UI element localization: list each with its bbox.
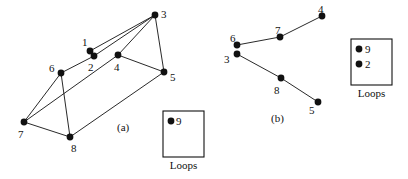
- figure-root: 12345678(a)9Loops345678(b)92Loops: [0, 0, 408, 179]
- graph-node-label-2: 2: [88, 62, 94, 73]
- loops-box-panel-a: [163, 111, 204, 157]
- graph-node-label-6: 6: [230, 33, 236, 44]
- graph-node-label-7: 7: [275, 25, 281, 36]
- loop-node-label-9: 9: [176, 116, 182, 127]
- graph-edge-2-3: [94, 15, 155, 56]
- graph-edge-3-8: [237, 54, 281, 78]
- graph-edge-6-7: [24, 73, 61, 122]
- graph-node-6[interactable]: [58, 70, 65, 77]
- panel-caption-panel-a: (a): [117, 122, 129, 133]
- graph-node-8[interactable]: [67, 134, 74, 141]
- loop-node-9[interactable]: [168, 118, 175, 125]
- graph-node-label-7: 7: [18, 129, 24, 140]
- graph-node-2[interactable]: [91, 53, 98, 60]
- graph-node-label-3: 3: [161, 9, 167, 20]
- graph-figure-canvas: [0, 0, 408, 179]
- graph-edge-7-4: [280, 16, 322, 37]
- graph-node-8[interactable]: [278, 75, 285, 82]
- graph-node-label-4: 4: [114, 62, 120, 73]
- graph-node-5[interactable]: [161, 69, 168, 76]
- graph-node-label-6: 6: [49, 63, 55, 74]
- graph-edge-7-4: [24, 55, 118, 122]
- graph-node-3[interactable]: [152, 12, 159, 19]
- graph-node-label-3: 3: [224, 54, 230, 65]
- graph-node-3[interactable]: [234, 51, 241, 58]
- graph-node-5[interactable]: [315, 99, 322, 106]
- nodes-layer: [21, 12, 363, 141]
- loop-node-label-2: 2: [365, 59, 371, 70]
- graph-node-4[interactable]: [115, 52, 122, 59]
- graph-node-label-8: 8: [274, 85, 280, 96]
- graph-edge-7-8: [24, 122, 70, 137]
- graph-edge-6-8: [61, 73, 70, 137]
- graph-edge-1-3: [90, 15, 155, 51]
- graph-edge-6-7: [237, 37, 280, 45]
- panel-caption-panel-b: (b): [271, 113, 284, 124]
- loop-node-label-9: 9: [365, 44, 371, 55]
- loop-node-2[interactable]: [356, 61, 363, 68]
- graph-node-label-4: 4: [318, 4, 324, 15]
- loops-caption-panel-b: Loops: [351, 88, 392, 99]
- graph-edge-4-5: [118, 55, 164, 72]
- graph-node-label-5: 5: [170, 72, 176, 83]
- graph-node-7[interactable]: [21, 119, 28, 126]
- graph-edge-8-5: [281, 78, 318, 102]
- graph-node-label-1: 1: [82, 37, 88, 48]
- graph-node-label-5: 5: [309, 105, 315, 116]
- loops-caption-panel-a: Loops: [163, 160, 204, 171]
- graph-node-label-8: 8: [71, 143, 77, 154]
- loop-node-9[interactable]: [356, 46, 363, 53]
- graph-edge-3-5: [155, 15, 164, 72]
- graph-edge-3-4: [118, 15, 155, 55]
